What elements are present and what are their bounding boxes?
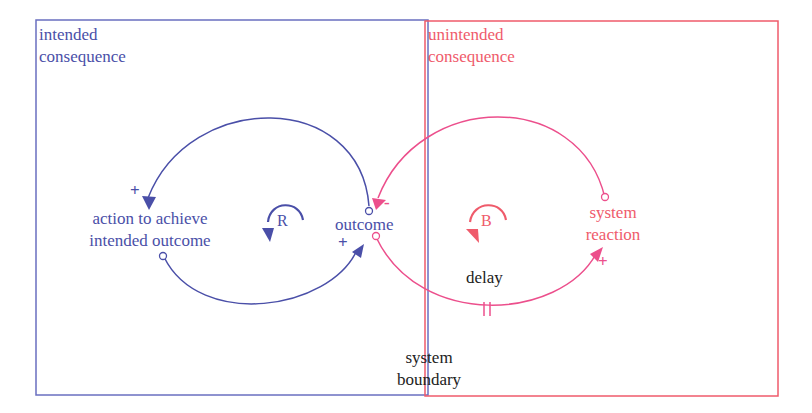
boundary-line2: boundary bbox=[384, 369, 474, 391]
polarity-action-to-outcome: + bbox=[338, 232, 348, 254]
variable-system-reaction: system reaction bbox=[578, 202, 648, 246]
variable-action: action to achieve intended outcome bbox=[70, 208, 230, 252]
loop-b-label: B bbox=[481, 210, 492, 232]
system-boundary-label: system boundary bbox=[384, 347, 474, 391]
polarity-reaction-to-outcome: - bbox=[384, 192, 390, 214]
loop-r-arrow-icon bbox=[262, 228, 274, 242]
reaction-line2: reaction bbox=[578, 224, 648, 246]
polarity-outcome-to-reaction: + bbox=[598, 251, 608, 273]
unintended-label-line2: consequence bbox=[428, 46, 515, 68]
unintended-label-line1: unintended bbox=[428, 24, 515, 46]
intended-label-line1: intended bbox=[39, 24, 126, 46]
intended-label-line2: consequence bbox=[39, 46, 126, 68]
intended-region-label: intended consequence bbox=[39, 24, 126, 68]
loop-r-label: R bbox=[277, 210, 288, 232]
action-line1: action to achieve bbox=[70, 208, 230, 230]
link-reaction-to-outcome bbox=[378, 117, 605, 198]
reaction-line1: system bbox=[578, 202, 648, 224]
link-action-to-outcome bbox=[164, 250, 357, 304]
loop-b-arrow-icon bbox=[466, 229, 479, 243]
link-origin-reaction-icon bbox=[602, 194, 609, 201]
unintended-region-label: unintended consequence bbox=[428, 24, 515, 68]
link-outcome-to-action bbox=[148, 118, 369, 206]
polarity-outcome-to-action: + bbox=[130, 180, 140, 202]
boundary-line1: system bbox=[384, 347, 474, 369]
delay-label: delay bbox=[466, 267, 503, 289]
link-origin-action-icon bbox=[160, 253, 167, 260]
action-line2: intended outcome bbox=[70, 230, 230, 252]
